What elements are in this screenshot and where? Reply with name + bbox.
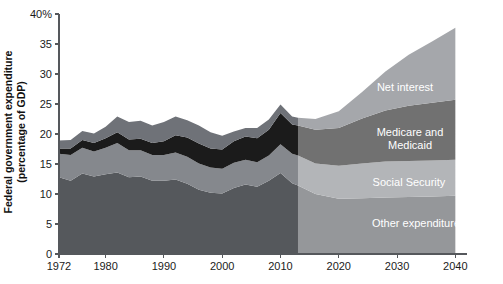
y-tick-label: 40% [30,8,52,20]
x-axis-ticks: 19721980199020002010202020302040 [47,254,468,272]
y-tick-label: 0 [46,248,52,260]
series-label-other-expenditure: Other expenditure [372,217,460,229]
x-tick-label: 2040 [443,260,467,272]
series-label-social-security: Social Security [373,176,446,188]
y-tick-label: 30 [40,68,52,80]
y-tick-label: 15 [40,158,52,170]
series-label-medicare-and-medicaid: Medicaid [388,139,432,151]
y-axis-title-line2: (percentage of GDP) [15,81,27,183]
series-label-medicare-and-medicaid: Medicare and [377,126,444,138]
y-axis-title-line1: Federal government expenditure [2,50,14,213]
x-tick-label: 2010 [268,260,292,272]
y-tick-label: 5 [46,218,52,230]
x-tick-label: 2030 [385,260,409,272]
y-axis-ticks: 0510152025303540% [30,8,59,260]
stacked-area-chart: 0510152025303540% 1972198019902000201020… [0,0,503,284]
series-label-net-interest: Net interest [377,81,433,93]
x-tick-label: 2000 [210,260,234,272]
x-tick-label: 1980 [93,260,117,272]
y-tick-label: 25 [40,98,52,110]
y-tick-label: 10 [40,188,52,200]
x-tick-label: 1972 [47,260,71,272]
x-tick-label: 1990 [152,260,176,272]
y-tick-label: 35 [40,38,52,50]
y-tick-label: 20 [40,128,52,140]
x-tick-label: 2020 [327,260,351,272]
chart-container: 0510152025303540% 1972198019902000201020… [0,0,503,284]
